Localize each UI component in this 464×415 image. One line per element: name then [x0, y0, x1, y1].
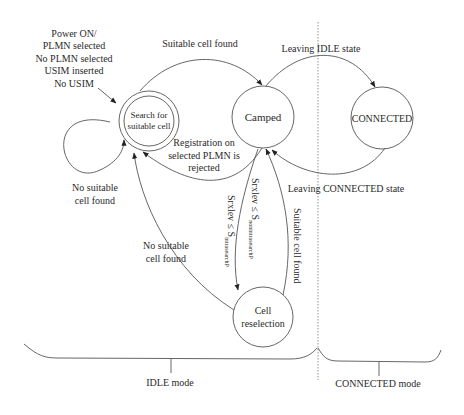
state-search-suitable-cell: Search for suitable cell — [119, 91, 179, 151]
state-reselection-line2: reselection — [241, 318, 284, 329]
entry-label-line: Power ON/ — [51, 28, 96, 39]
srxlev-sub: nonintrasearchP — [248, 220, 254, 259]
srxlev-main: Srxlev ≤ S — [226, 195, 237, 237]
entry-label-line: No USIM — [54, 78, 94, 89]
label-line: No suitable — [72, 182, 118, 193]
state-camped: Camped — [232, 86, 294, 148]
edge-search-to-camped — [140, 59, 262, 91]
edge-camped-to-connected — [266, 55, 375, 87]
label-idle-mode: IDLE mode — [146, 377, 194, 388]
label-line: Registration on — [173, 137, 234, 148]
label-srxlev-nonintra: Srxlev ≤ SnonintrasearchP — [248, 178, 261, 259]
label-suitable-cell-found-reselect: Suitable cell found — [292, 208, 303, 284]
label-no-suitable-self: No suitable cell found — [72, 182, 118, 206]
state-camped-label: Camped — [245, 111, 282, 123]
edge-self-loop-no-suitable — [64, 120, 124, 173]
entry-label-line: PLMN selected — [43, 40, 106, 51]
label-line: rejected — [188, 162, 220, 173]
label-line: cell found — [75, 195, 115, 206]
entry-label: Power ON/ PLMN selected No PLMN selected… — [35, 28, 112, 89]
state-diagram: Search for suitable cell Camped CONNECTE… — [0, 0, 464, 415]
srxlev-sub: intrasearchP — [224, 237, 230, 267]
srxlev-main: Srxlev ≤ S — [250, 178, 261, 220]
entry-label-line: No PLMN selected — [35, 53, 112, 64]
label-line: selected PLMN is — [168, 150, 240, 161]
edge-reselection-to-search — [134, 153, 234, 310]
label-connected-mode: CONNECTED mode — [335, 378, 421, 389]
state-cell-reselection: Cell reselection — [233, 287, 293, 347]
label-line: cell found — [146, 253, 186, 264]
edge-reselection-to-camped — [266, 149, 288, 295]
state-reselection-line1: Cell — [255, 305, 272, 316]
edge-connected-to-camped — [272, 148, 385, 174]
brace-idle — [24, 344, 317, 359]
brace-connected — [318, 348, 441, 362]
state-connected: CONNECTED — [351, 87, 413, 149]
label-registration-rejected: Registration on selected PLMN is rejecte… — [168, 137, 240, 173]
label-no-suitable-reselect: No suitable cell found — [143, 240, 189, 264]
label-leaving-connected: Leaving CONNECTED state — [288, 183, 405, 194]
entry-label-line: USIM inserted — [44, 65, 103, 76]
edge-entry — [98, 88, 116, 103]
state-connected-label: CONNECTED — [352, 113, 413, 124]
label-suitable-cell-found: Suitable cell found — [162, 38, 238, 49]
label-leaving-idle: Leaving IDLE state — [282, 43, 361, 54]
state-search-line1: Search for — [130, 110, 167, 120]
label-line: No suitable — [143, 240, 189, 251]
state-search-line2: suitable cell — [127, 121, 171, 131]
